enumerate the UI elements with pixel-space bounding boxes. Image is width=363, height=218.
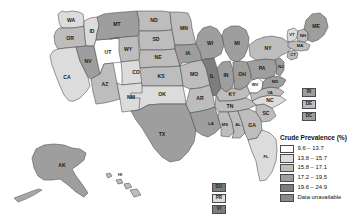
state-OR[interactable]: [54, 26, 86, 49]
state-HI-4[interactable]: [130, 189, 141, 197]
state-MN[interactable]: [170, 12, 196, 45]
state-HI-3[interactable]: [124, 183, 132, 189]
inset-label-RI: RI: [307, 90, 312, 95]
state-WA[interactable]: [58, 11, 84, 28]
legend-title: Crude Prevalence (%): [280, 134, 363, 141]
legend-label: Data unavailable: [298, 195, 342, 201]
legend-label: 17.2 – 19.5: [298, 175, 327, 181]
state-CT[interactable]: [287, 50, 298, 60]
state-MA[interactable]: [288, 41, 310, 51]
state-KS[interactable]: [140, 66, 183, 86]
inset-box-PR[interactable]: PR: [212, 194, 226, 203]
legend-item[interactable]: 15.8 – 17.1: [278, 164, 363, 173]
state-NE[interactable]: [139, 49, 180, 68]
legend-swatch: [280, 174, 294, 182]
inset-box-RI[interactable]: RI: [302, 88, 316, 97]
inset-label-DE: DE: [306, 102, 312, 107]
legend-swatch: [280, 145, 294, 153]
legend-swatch: [280, 184, 294, 192]
inset-box-GU[interactable]: GU: [212, 183, 226, 192]
aleutian-islands: [14, 189, 42, 202]
inset-box-VI[interactable]: VI: [212, 205, 226, 214]
legend-item[interactable]: 19.6 – 24.9: [278, 183, 363, 192]
legend-item[interactable]: 9.6 – 13.7: [278, 144, 363, 153]
legend-item[interactable]: 13.8 – 15.7: [278, 154, 363, 163]
state-MT[interactable]: [96, 11, 140, 40]
inset-box-DC[interactable]: DC: [302, 112, 316, 121]
state-HI[interactable]: [106, 173, 112, 178]
state-NY[interactable]: [249, 36, 292, 60]
legend-label: 13.8 – 15.7: [298, 156, 327, 162]
legend-label: 15.8 – 17.1: [298, 165, 327, 171]
legend-swatch: [280, 164, 294, 172]
choropleth-figure: WA OR CA ID NV UT AZ MT WY CO NM ND SD N…: [0, 0, 363, 218]
legend: Crude Prevalence (%) 9.6 – 13.7 13.8 – 1…: [278, 134, 363, 203]
state-MI[interactable]: [222, 26, 249, 62]
state-AK[interactable]: [32, 144, 88, 197]
legend-swatch: [280, 194, 294, 202]
inset-label-DC: DC: [306, 114, 313, 119]
legend-label: 19.6 – 24.9: [298, 185, 327, 191]
state-TX[interactable]: [131, 104, 196, 162]
legend-item[interactable]: 17.2 – 19.5: [278, 173, 363, 182]
legend-item[interactable]: Data unavailable: [278, 193, 363, 202]
inset-label-VI: VI: [217, 207, 221, 212]
inset-box-DE[interactable]: DE: [302, 100, 316, 109]
inset-label-GU: GU: [216, 185, 223, 190]
state-HI-2[interactable]: [116, 179, 123, 184]
state-ND[interactable]: [137, 11, 172, 31]
inset-label-PR: PR: [216, 196, 222, 201]
legend-swatch: [280, 154, 294, 162]
state-SD[interactable]: [139, 30, 175, 50]
legend-label: 9.6 – 13.7: [298, 146, 324, 152]
label-HI: HI: [118, 172, 122, 177]
state-VT[interactable]: [287, 28, 298, 42]
